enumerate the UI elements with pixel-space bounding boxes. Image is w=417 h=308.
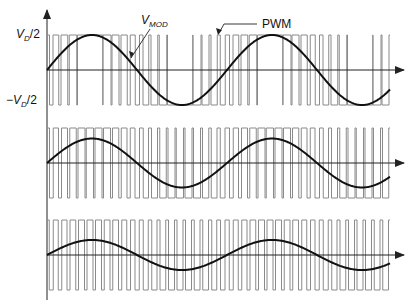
pwm-label: PWM xyxy=(262,17,291,31)
vd-pos-suffix: /2 xyxy=(30,27,40,41)
vmod-label: VMOD xyxy=(141,13,168,29)
vd-neg-suffix: /2 xyxy=(27,93,37,107)
vd-pos-label: VD/2 xyxy=(16,27,40,43)
pwm-leader xyxy=(219,24,257,33)
vmod-leader xyxy=(131,29,150,58)
vd-neg-label: −VD/2 xyxy=(6,93,37,109)
panel-high-modulation xyxy=(47,35,404,105)
vd-neg-prefix: −V xyxy=(6,93,21,107)
panel-low-modulation xyxy=(47,220,404,290)
panel-medium-modulation xyxy=(47,128,404,198)
vd-pos-prefix: V xyxy=(16,27,24,41)
pwm-diagram xyxy=(0,0,417,308)
vmod-sub: MOD xyxy=(149,20,168,29)
vmod-prefix: V xyxy=(141,13,149,27)
